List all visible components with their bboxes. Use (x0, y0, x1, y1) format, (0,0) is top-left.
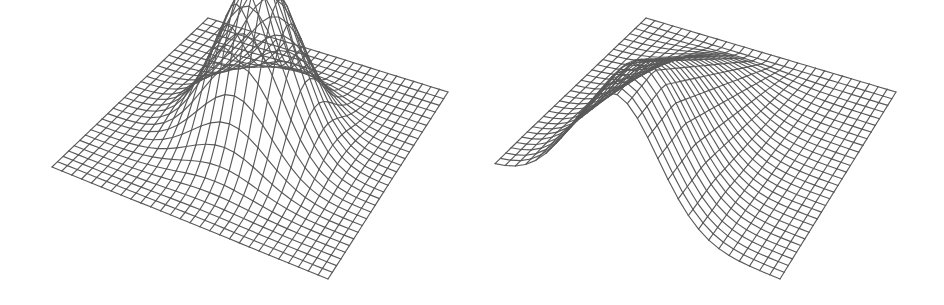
mesh-line-v (770, 67, 779, 70)
mesh-line-u (839, 107, 843, 113)
mesh-line-v (666, 69, 676, 82)
mesh-line-u (802, 198, 806, 205)
mesh-line-v (809, 175, 819, 179)
mesh-line-v (581, 80, 590, 82)
mesh-line-u (797, 246, 801, 253)
mesh-line-v (793, 95, 802, 100)
mesh-line-v (704, 66, 713, 75)
mesh-line-u (752, 73, 757, 75)
mesh-line-u (788, 81, 793, 85)
mesh-line-u (533, 122, 538, 127)
mesh-line-v (742, 109, 751, 120)
mesh-line-u (842, 172, 846, 179)
mesh-line-u (608, 49, 613, 54)
mesh-line-u (671, 34, 676, 39)
mesh-line-u (741, 210, 745, 216)
mesh-line-v (848, 117, 857, 120)
mesh-line-v (798, 211, 808, 215)
mesh-line-u (767, 233, 771, 240)
mesh-line-v (709, 240, 719, 249)
mesh-line-u (762, 162, 766, 168)
mesh-line-v (762, 167, 772, 174)
mesh-line-u (781, 231, 785, 238)
mesh-line-u (875, 103, 879, 110)
mesh-line-u (813, 219, 817, 226)
mesh-line-v (816, 68, 825, 71)
mesh-line-u (677, 128, 682, 134)
mesh-line-v (765, 222, 775, 227)
mesh-line-u (800, 165, 804, 171)
mesh-line-v (813, 152, 822, 156)
mesh-line-u (750, 198, 754, 204)
mesh-line-v (834, 104, 843, 107)
mesh-line-v (779, 110, 788, 116)
mesh-line-u (681, 123, 686, 128)
mesh-line-u (770, 98, 775, 102)
mesh-line-v (775, 84, 784, 90)
mesh-line-v (603, 60, 612, 62)
mesh-line-v (823, 172, 833, 175)
mesh-line-v (887, 89, 896, 92)
mesh-line-v (682, 161, 692, 180)
mesh-line-v (849, 149, 858, 152)
mesh-line-u (791, 178, 795, 184)
mesh-line-v (770, 103, 779, 110)
mesh-line-u (784, 116, 789, 121)
mesh-line-v (669, 56, 678, 57)
mesh-line-v (690, 98, 700, 116)
mesh-line-v (762, 246, 772, 250)
mesh-line-v (754, 260, 764, 264)
mesh-line-v (712, 45, 721, 48)
mesh-line-v (797, 194, 807, 198)
mesh-line-u (677, 29, 682, 34)
mesh-line-u (684, 44, 689, 47)
mesh-line-v (793, 110, 802, 115)
mesh-line-v (747, 89, 756, 98)
mesh-line-v (835, 136, 844, 139)
mesh-line-u (712, 39, 717, 45)
mesh-line-u (862, 122, 866, 129)
mesh-line-v (678, 199, 688, 216)
mesh-line-u (697, 197, 702, 203)
mesh-line-u (793, 90, 798, 95)
mesh-line-u (728, 230, 732, 236)
mesh-line-v (840, 146, 849, 149)
mesh-line-v (718, 227, 728, 235)
mesh-line-v (765, 78, 774, 84)
mesh-line-v (756, 98, 765, 107)
mesh-line-u (765, 103, 770, 107)
mesh-line-v (774, 268, 784, 272)
mesh-line-v (792, 201, 802, 205)
mesh-line-v (820, 107, 829, 110)
mesh-line-u (576, 80, 581, 85)
mesh-line-v (857, 120, 866, 123)
mesh-line-u (681, 99, 686, 101)
mesh-line-v (826, 133, 835, 136)
mesh-line-u (775, 110, 780, 115)
mesh-line-v (798, 121, 807, 125)
mesh-line-u (614, 44, 619, 49)
mesh-line-u (690, 96, 695, 98)
mesh-line-u (775, 126, 780, 131)
mesh-line-u (671, 103, 676, 107)
mesh-line-u (798, 99, 803, 104)
mesh-line-v (668, 31, 677, 34)
mesh-line-u (630, 29, 635, 34)
mesh-line-v (646, 51, 655, 52)
mesh-line-u (779, 90, 784, 94)
mesh-line-v (671, 39, 680, 41)
mesh-line-v (874, 93, 883, 96)
mesh-line-v (783, 197, 793, 201)
mesh-line-v (756, 115, 765, 124)
mesh-line-u (834, 83, 838, 89)
mesh-line-u (720, 145, 725, 149)
mesh-line-u (858, 129, 862, 136)
mesh-line-u (815, 179, 819, 186)
mesh-line-v (730, 50, 739, 53)
mesh-line-u (771, 132, 776, 137)
mesh-line-v (772, 251, 782, 255)
mesh-line-u (829, 74, 833, 80)
mesh-line-v (766, 69, 775, 73)
mesh-line-v (862, 129, 871, 132)
mesh-line-u (729, 137, 734, 141)
